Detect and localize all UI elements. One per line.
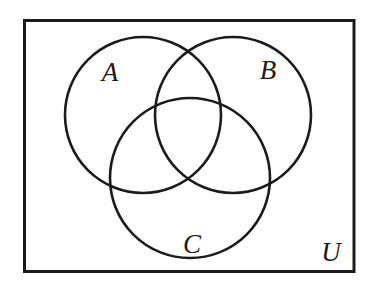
venn-diagram-canvas: A B C U [0, 0, 370, 289]
venn-diagram-figure: A B C U [0, 0, 370, 289]
set-a-label: A [100, 57, 119, 87]
set-b-label: B [260, 55, 277, 85]
set-a-circle [65, 37, 221, 193]
universal-set-label: U [321, 237, 342, 267]
set-c-label: C [183, 229, 202, 259]
set-b-circle [155, 37, 311, 193]
